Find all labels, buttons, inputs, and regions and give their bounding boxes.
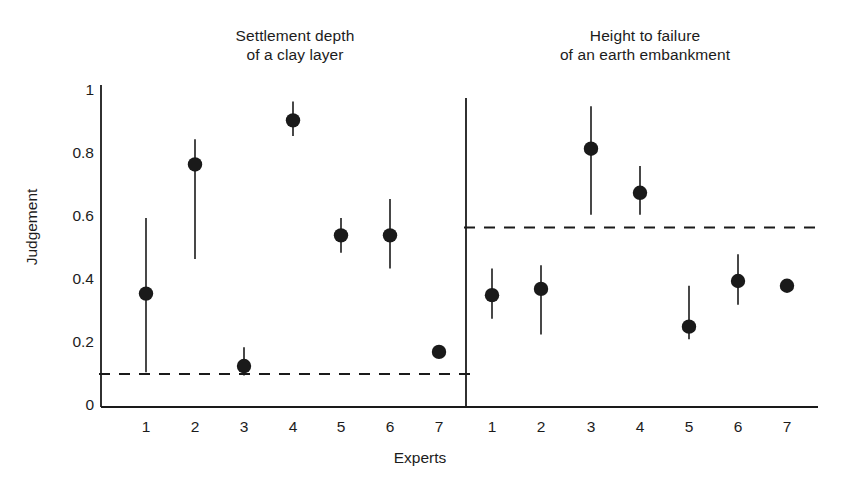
x-tick-label-p0-5: 5 [329,418,353,436]
data-point-marker [334,228,348,242]
x-tick-label-p0-7: 7 [427,418,451,436]
data-point-group [383,199,397,268]
x-tick-label-p0-6: 6 [378,418,402,436]
x-tick-label-p1-7: 7 [775,418,799,436]
data-point-group [188,139,202,259]
data-point-group [584,106,598,215]
data-point-marker [633,186,647,200]
x-tick-label-p0-3: 3 [232,418,256,436]
x-tick-label-p1-6: 6 [726,418,750,436]
data-point-group [485,268,499,318]
axes-layer [101,85,818,407]
data-point-marker [780,279,794,293]
data-point-group [780,279,794,293]
data-point-group [237,347,251,375]
data-point-group [432,345,446,359]
data-point-group [682,286,696,340]
x-tick-label-p0-2: 2 [183,418,207,436]
figure-root: Settlement depth of a clay layer Height … [0,0,842,500]
data-point-group [286,101,300,136]
data-point-group [633,166,647,215]
data-point-marker [682,319,696,333]
data-point-marker [286,113,300,127]
data-point-group [731,254,745,304]
plot-area [0,0,842,500]
data-point-marker [383,228,397,242]
data-point-marker [188,157,202,171]
data-point-group [334,218,348,253]
reference-lines-layer [99,227,824,373]
x-tick-label-p1-5: 5 [677,418,701,436]
data-point-marker [731,274,745,288]
x-tick-label-p1-4: 4 [628,418,652,436]
data-point-group [534,265,548,334]
data-point-marker [485,288,499,302]
x-tick-label-p0-1: 1 [134,418,158,436]
x-tick-label-p0-4: 4 [281,418,305,436]
data-point-group [139,218,153,372]
x-tick-label-p1-3: 3 [579,418,603,436]
x-tick-label-p1-2: 2 [529,418,553,436]
data-point-marker [534,282,548,296]
data-point-marker [139,286,153,300]
data-point-marker [237,359,251,373]
x-tick-label-p1-1: 1 [480,418,504,436]
data-point-marker [432,345,446,359]
data-point-marker [584,142,598,156]
